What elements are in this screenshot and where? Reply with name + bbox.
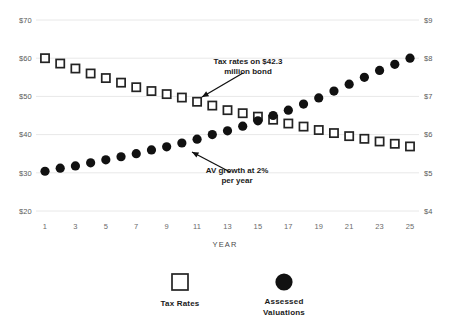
tax-rates-annotation: Tax rates on $42.3million bond [202,57,283,97]
left-axis-tick-label: $60 [19,54,32,63]
data-point-assessed-valuations [177,138,186,147]
data-point-tax-rates [406,142,414,150]
data-point-assessed-valuations [329,86,338,95]
data-point-tax-rates [345,132,353,140]
data-point-tax-rates [284,119,292,127]
x-axis-tick-label: 1 [43,222,47,231]
data-point-assessed-valuations [56,164,65,173]
data-point-tax-rates [71,64,79,72]
data-point-assessed-valuations [253,116,262,125]
x-axis-tick-label: 25 [406,222,415,231]
data-point-tax-rates [315,126,323,134]
data-point-tax-rates [87,69,95,77]
data-point-assessed-valuations [116,152,125,161]
data-point-assessed-valuations [208,130,217,139]
av-growth-annotation: AV growth at 2%per year [192,152,268,185]
scatter-chart: $70$60$50$40$30$20 $9$8$7$6$5$4 13579111… [0,0,450,322]
chart-legend: Tax Rates Assessed Valuations [160,273,305,317]
data-point-tax-rates [299,122,307,130]
tax-rates-annotation-arrow-line [202,73,243,97]
data-point-assessed-valuations [390,60,399,69]
x-axis-tick-label: 19 [314,222,323,231]
data-point-assessed-valuations [314,93,323,102]
x-axis-tick-label: 15 [254,222,263,231]
data-point-tax-rates [163,90,171,98]
data-point-assessed-valuations [162,142,171,151]
left-axis-tick-label: $70 [19,16,32,25]
right-axis-tick-label: $5 [424,169,433,178]
data-point-tax-rates [147,87,155,95]
data-point-tax-rates [375,137,383,145]
data-point-assessed-valuations [375,66,384,75]
data-point-assessed-valuations [269,111,278,120]
x-axis-tick-label: 11 [193,222,201,231]
data-point-tax-rates [132,83,140,91]
av-growth-annotation-line2: per year [221,176,252,185]
tax-rates-annotation-line2: million bond [224,67,272,76]
x-axis-tick-label: 17 [284,222,293,231]
left-axis-labels-group: $70$60$50$40$30$20 [19,16,32,216]
x-axis-tick-label: 9 [164,222,168,231]
data-point-assessed-valuations [132,149,141,158]
data-point-assessed-valuations [71,161,80,170]
legend-assessed-valuations-label-line1: Assessed [265,297,304,306]
data-point-assessed-valuations [299,99,308,108]
data-point-assessed-valuations [223,126,232,135]
right-axis-tick-label: $9 [424,16,433,25]
data-point-tax-rates [239,109,247,117]
data-point-tax-rates [41,54,49,62]
left-axis-tick-label: $50 [19,92,32,101]
x-axis-tick-label: 5 [104,222,108,231]
x-axis-tick-label: 23 [375,222,384,231]
legend-assessed-valuations-icon [275,273,292,290]
data-point-assessed-valuations [86,158,95,167]
right-axis-tick-label: $7 [424,92,433,101]
data-point-tax-rates [102,74,110,82]
data-point-assessed-valuations [284,106,293,115]
legend-assessed-valuations-label-line2: Valuations [263,308,305,317]
data-point-tax-rates [193,98,201,106]
tax-rates-annotation-line1: Tax rates on $42.3 [214,57,283,66]
left-axis-tick-label: $40 [19,130,32,139]
data-point-tax-rates [330,129,338,137]
x-axis-tick-label: 3 [73,222,77,231]
left-axis-tick-label: $30 [19,169,32,178]
legend-tax-rates-icon [172,274,188,290]
data-point-tax-rates [360,135,368,143]
data-point-assessed-valuations [40,167,49,176]
data-point-tax-rates [178,93,186,101]
x-axis-title: YEAR [213,240,238,249]
legend-tax-rates-label: Tax Rates [160,299,199,308]
right-axis-tick-label: $8 [424,54,433,63]
data-point-tax-rates [56,59,64,67]
data-point-assessed-valuations [360,73,369,82]
data-point-assessed-valuations [147,145,156,154]
data-point-assessed-valuations [345,80,354,89]
right-axis-tick-label: $6 [424,130,433,139]
chart-container: $70$60$50$40$30$20 $9$8$7$6$5$4 13579111… [0,0,450,322]
x-axis-tick-label: 13 [223,222,232,231]
data-point-assessed-valuations [238,122,247,131]
av-growth-annotation-line1: AV growth at 2% [206,166,269,175]
data-point-tax-rates [223,106,231,114]
x-axis-tick-labels-group: 135791113151719212325 [43,222,415,231]
data-point-tax-rates [208,101,216,109]
data-point-assessed-valuations [405,54,414,63]
left-axis-tick-label: $20 [19,207,32,216]
right-axis-labels-group: $9$8$7$6$5$4 [424,16,433,216]
x-axis-tick-label: 21 [345,222,354,231]
x-axis-tick-label: 7 [134,222,138,231]
data-point-tax-rates [117,79,125,87]
right-axis-tick-label: $4 [424,207,433,216]
data-point-assessed-valuations [192,135,201,144]
data-point-assessed-valuations [101,155,110,164]
data-point-tax-rates [391,140,399,148]
